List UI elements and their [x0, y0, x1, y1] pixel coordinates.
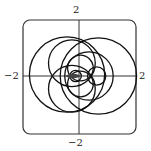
x-min-tick-label: −2 — [4, 71, 19, 81]
center-dense-region — [66, 74, 80, 78]
y-min-tick-label: −2 — [68, 138, 83, 148]
large-left-loop — [29, 37, 104, 112]
y-max-tick-label: 2 — [73, 5, 79, 15]
x-max-tick-label: 2 — [139, 71, 145, 81]
polar-plot — [0, 0, 151, 151]
